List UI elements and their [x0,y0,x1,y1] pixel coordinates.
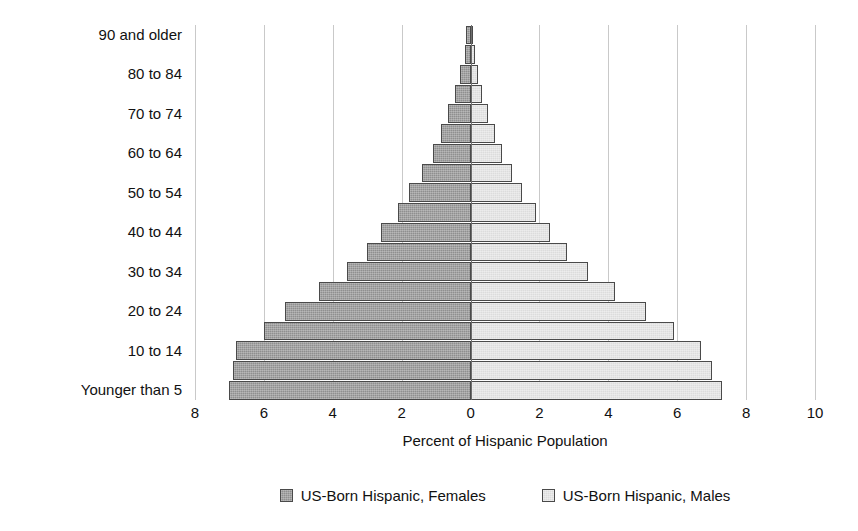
bar-row [195,301,815,321]
y-tick-row: 80 to 84 [0,65,190,85]
bar-male [471,164,512,183]
x-tick-label: 0 [466,404,474,422]
y-tick-row [0,163,190,183]
y-tick-label: 10 to 14 [128,343,182,359]
y-tick-label: Younger than 5 [81,382,182,398]
bar-row [195,321,815,341]
bar-row [195,65,815,85]
y-tick-label: 30 to 34 [128,264,182,280]
y-tick-row [0,361,190,381]
y-tick-row: 10 to 14 [0,341,190,361]
bar-row [195,163,815,183]
y-tick-label: 40 to 44 [128,224,182,240]
bar-female [367,243,470,262]
bar-female [422,164,470,183]
y-tick-label: 60 to 64 [128,145,182,161]
bar-row [195,124,815,144]
bar-female [236,341,470,360]
x-tick-label: 10 [807,404,824,422]
bar-row [195,84,815,104]
bar-row [195,222,815,242]
y-tick-row [0,242,190,262]
legend-item-males[interactable]: US-Born Hispanic, Males [542,487,731,504]
x-tick-label: 2 [397,404,405,422]
legend-label: US-Born Hispanic, Females [301,487,486,504]
bar-row [195,25,815,45]
zero-axis-line [471,25,472,400]
bar-male [471,104,488,123]
female-swatch [280,489,293,502]
bar-female [441,124,470,143]
y-tick-row [0,45,190,65]
x-tick-label: 4 [329,404,337,422]
bar-female [319,282,471,301]
x-tick-label: 2 [535,404,543,422]
x-tick-label: 6 [260,404,268,422]
y-tick-row: 40 to 44 [0,222,190,242]
bar-female [381,223,471,242]
x-axis-tick-labels: 86420246810 [195,404,815,424]
y-tick-label: 80 to 84 [128,66,182,82]
y-tick-row [0,84,190,104]
bar-row [195,262,815,282]
bar-row [195,45,815,65]
legend-label: US-Born Hispanic, Males [563,487,731,504]
bar-female [229,381,470,400]
bar-row [195,104,815,124]
y-tick-row: 60 to 64 [0,143,190,163]
y-tick-row [0,282,190,302]
bar-male [471,243,567,262]
bar-male [471,203,536,222]
y-tick-row [0,124,190,144]
bar-female [398,203,470,222]
x-axis-title: Percent of Hispanic Population [195,432,815,449]
population-pyramid-chart: Younger than 510 to 1420 to 2430 to 3440… [0,0,858,531]
bar-male [471,341,702,360]
bar-male [471,144,502,163]
chart-legend: US-Born Hispanic, FemalesUS-Born Hispani… [195,487,815,504]
y-tick-label: 70 to 74 [128,106,182,122]
bar-row [195,242,815,262]
bar-row [195,183,815,203]
bar-male [471,381,722,400]
y-tick-label: 20 to 24 [128,303,182,319]
bar-row [195,341,815,361]
y-tick-row: 30 to 34 [0,262,190,282]
y-tick-row: Younger than 5 [0,380,190,400]
bar-male [471,262,588,281]
bar-male [471,361,712,380]
bar-row [195,361,815,381]
bar-male [471,302,647,321]
bar-female [233,361,471,380]
bar-male [471,282,616,301]
x-tick-label: 6 [673,404,681,422]
bar-male [471,85,483,104]
bar-male [471,65,479,84]
gridline-9 [815,25,816,400]
bar-male [471,124,495,143]
bar-row [195,282,815,302]
plot-area [195,25,815,400]
bar-row [195,203,815,223]
x-tick-label: 8 [191,404,199,422]
x-tick-label: 4 [604,404,612,422]
y-tick-row: 90 and older [0,25,190,45]
bar-female [285,302,471,321]
bar-row [195,143,815,163]
legend-item-females[interactable]: US-Born Hispanic, Females [280,487,486,504]
bar-female [264,322,471,341]
male-swatch [542,489,555,502]
y-tick-row [0,203,190,223]
bar-female [409,183,471,202]
y-tick-row: 20 to 24 [0,301,190,321]
y-tick-row [0,321,190,341]
bar-male [471,183,523,202]
bar-rows [195,25,815,400]
x-tick-label: 8 [742,404,750,422]
y-tick-row: 70 to 74 [0,104,190,124]
y-tick-label: 50 to 54 [128,185,182,201]
y-tick-label: 90 and older [99,27,182,43]
bar-female [433,144,471,163]
bar-female [347,262,471,281]
bar-female [455,85,471,104]
